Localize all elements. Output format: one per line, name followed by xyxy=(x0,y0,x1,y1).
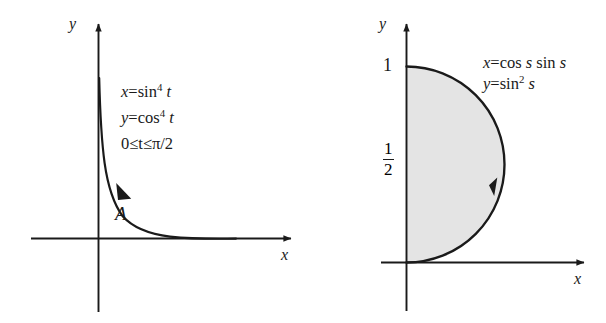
left-x-axis-label: x xyxy=(281,246,288,264)
left-eq2-argument: t xyxy=(169,108,174,127)
left-eq1-argument: t xyxy=(166,82,171,101)
right-eq1-argument-1: s xyxy=(526,53,532,72)
left-equation-line-1: x=sin4 t xyxy=(121,84,171,101)
left-equation-line-3: 0≤t≤π/2 xyxy=(121,136,173,153)
right-equation-line-1: x=cos s sin s xyxy=(483,55,566,72)
fraction-one-half: 1 2 xyxy=(383,140,394,179)
right-eq2-equals: = xyxy=(490,74,499,93)
right-eq1-equals: = xyxy=(490,53,499,72)
right-shaded-region xyxy=(407,67,505,263)
left-panel-group xyxy=(31,24,291,312)
right-eq2-exponent: 2 xyxy=(519,73,524,85)
left-equation-line-2: y=cos4 t xyxy=(121,110,174,127)
left-eq2-equals: = xyxy=(128,108,137,127)
figure-canvas xyxy=(0,0,606,323)
right-x-axis-label: x xyxy=(574,270,581,288)
right-eq1-function-1: cos xyxy=(500,53,522,72)
parametric-curves-figure: y x x=sin4 t y=cos4 t 0≤t≤π/2 A y x x=co… xyxy=(0,0,606,323)
left-region-label-A: A xyxy=(115,203,127,225)
right-eq2-function: sin xyxy=(500,74,519,93)
left-eq1-function: sin xyxy=(138,82,157,101)
right-eq1-function-2: sin xyxy=(536,53,555,72)
left-eq2-exponent: 4 xyxy=(160,107,165,119)
fraction-numerator: 1 xyxy=(383,140,394,158)
left-y-axis-label: y xyxy=(69,15,76,33)
right-y-axis-label: y xyxy=(379,15,386,33)
right-eq1-argument-2: s xyxy=(560,53,566,72)
right-y-tick-label-one-half: 1 2 xyxy=(383,140,394,179)
left-eq2-function: cos xyxy=(138,108,160,127)
left-eq1-exponent: 4 xyxy=(157,81,162,93)
right-equation-line-2: y=sin2 s xyxy=(483,76,535,93)
left-curve-direction-arrow xyxy=(116,183,131,200)
right-y-tick-label-one: 1 xyxy=(383,55,392,76)
fraction-denominator: 2 xyxy=(383,161,394,179)
right-eq2-argument: s xyxy=(528,74,534,93)
left-eq1-equals: = xyxy=(128,82,137,101)
